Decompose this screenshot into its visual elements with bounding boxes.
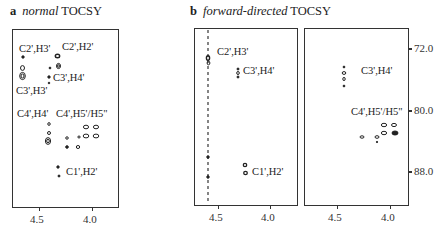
nmr-contour-peaks: [0, 0, 440, 233]
